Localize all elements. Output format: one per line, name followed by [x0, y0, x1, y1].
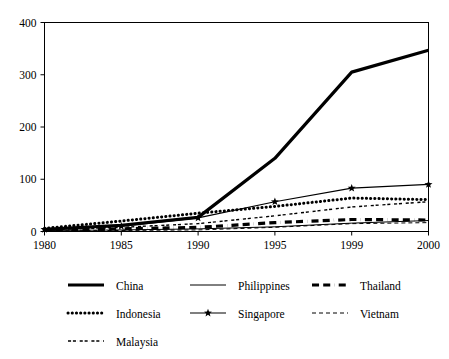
- legend-marker-singapore: [204, 309, 212, 317]
- legend-item-indonesia[interactable]: Indonesia: [68, 308, 161, 320]
- legend-label-singapore: Singapore: [238, 308, 285, 321]
- series-marker-singapore: [271, 198, 279, 206]
- y-tick-label: 400: [19, 17, 37, 29]
- x-tick-label: 1999: [340, 239, 363, 251]
- line-chart: 0100200300400 198019851990199519992000 C…: [0, 0, 449, 359]
- legend-item-singapore[interactable]: Singapore: [190, 308, 285, 321]
- y-tick-label: 300: [19, 69, 37, 81]
- legend-item-philippines[interactable]: Philippines: [190, 280, 290, 293]
- x-tick-label: 1985: [110, 239, 133, 251]
- series-layer: [41, 50, 433, 233]
- chart-svg: 0100200300400 198019851990199519992000 C…: [0, 0, 449, 359]
- y-tick-label: 0: [31, 226, 37, 238]
- legend-item-vietnam[interactable]: Vietnam: [312, 308, 399, 320]
- x-axis: 198019851990199519992000: [33, 232, 440, 251]
- plot-frame: [45, 23, 429, 232]
- chart-legend: ChinaPhilippinesThailandIndonesiaSingapo…: [68, 280, 401, 349]
- legend-label-vietnam: Vietnam: [360, 308, 399, 320]
- legend-item-thailand[interactable]: Thailand: [312, 280, 401, 292]
- legend-label-indonesia: Indonesia: [116, 308, 161, 320]
- y-axis: 0100200300400: [19, 17, 44, 238]
- x-tick-label: 1990: [187, 239, 210, 251]
- legend-item-malaysia[interactable]: Malaysia: [68, 336, 158, 349]
- legend-label-malaysia: Malaysia: [116, 336, 158, 349]
- y-tick-label: 100: [19, 173, 37, 185]
- y-tick-label: 200: [19, 121, 37, 133]
- x-tick-label: 2000: [417, 239, 440, 251]
- x-tick-label: 1980: [33, 239, 56, 251]
- legend-label-china: China: [116, 280, 143, 292]
- legend-label-philippines: Philippines: [238, 280, 290, 293]
- x-tick-label: 1995: [263, 239, 286, 251]
- series-marker-singapore: [117, 222, 125, 230]
- series-marker-singapore: [348, 184, 356, 192]
- legend-label-thailand: Thailand: [360, 280, 401, 292]
- legend-item-china[interactable]: China: [68, 280, 143, 292]
- series-line-china: [45, 50, 429, 229]
